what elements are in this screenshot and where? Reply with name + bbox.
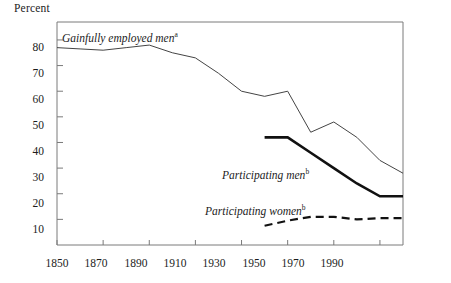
x-tick-label-1870: 1870 <box>76 257 116 269</box>
y-axis-title: Percent <box>14 2 50 14</box>
y-tick-label-30: 30 <box>18 171 44 183</box>
x-tick-label-1930: 1930 <box>194 257 234 269</box>
y-tick-label-40: 40 <box>18 145 44 157</box>
series-layer <box>57 45 403 226</box>
footnote-marker-b: b <box>305 167 309 176</box>
series-line-participating-men <box>265 137 403 196</box>
x-tick-label-1850: 1850 <box>37 257 77 269</box>
y-tick-label-60: 60 <box>18 93 44 105</box>
footnote-marker-a: a <box>174 30 177 39</box>
series-line-participating-women <box>265 217 403 226</box>
series-label-text: Gainfully employed men <box>62 32 174 44</box>
footnote-marker-b: b <box>302 203 306 212</box>
series-line-gainfully-employed-men <box>57 45 403 173</box>
x-tick-label-1950: 1950 <box>234 257 274 269</box>
x-tick-label-1910: 1910 <box>155 257 195 269</box>
chart-figure: Percent 80 70 60 50 40 30 20 10 1850 187… <box>0 0 451 283</box>
series-label-participating-women: Participating womenb <box>205 205 306 217</box>
x-tick-label-1970: 1970 <box>273 257 313 269</box>
x-tick-label-1890: 1890 <box>116 257 156 269</box>
y-tick-label-10: 10 <box>18 223 44 235</box>
x-tick-label-1990: 1990 <box>312 257 352 269</box>
y-tick-label-20: 20 <box>18 197 44 209</box>
y-tick-label-80: 80 <box>18 41 44 53</box>
series-label-gainfully-employed-men: Gainfully employed mena <box>62 32 178 44</box>
y-tick-label-70: 70 <box>18 67 44 79</box>
series-label-text: Participating men <box>222 169 305 181</box>
series-label-text: Participating women <box>205 205 302 217</box>
y-tick-label-50: 50 <box>18 119 44 131</box>
series-label-participating-men: Participating menb <box>222 169 309 181</box>
